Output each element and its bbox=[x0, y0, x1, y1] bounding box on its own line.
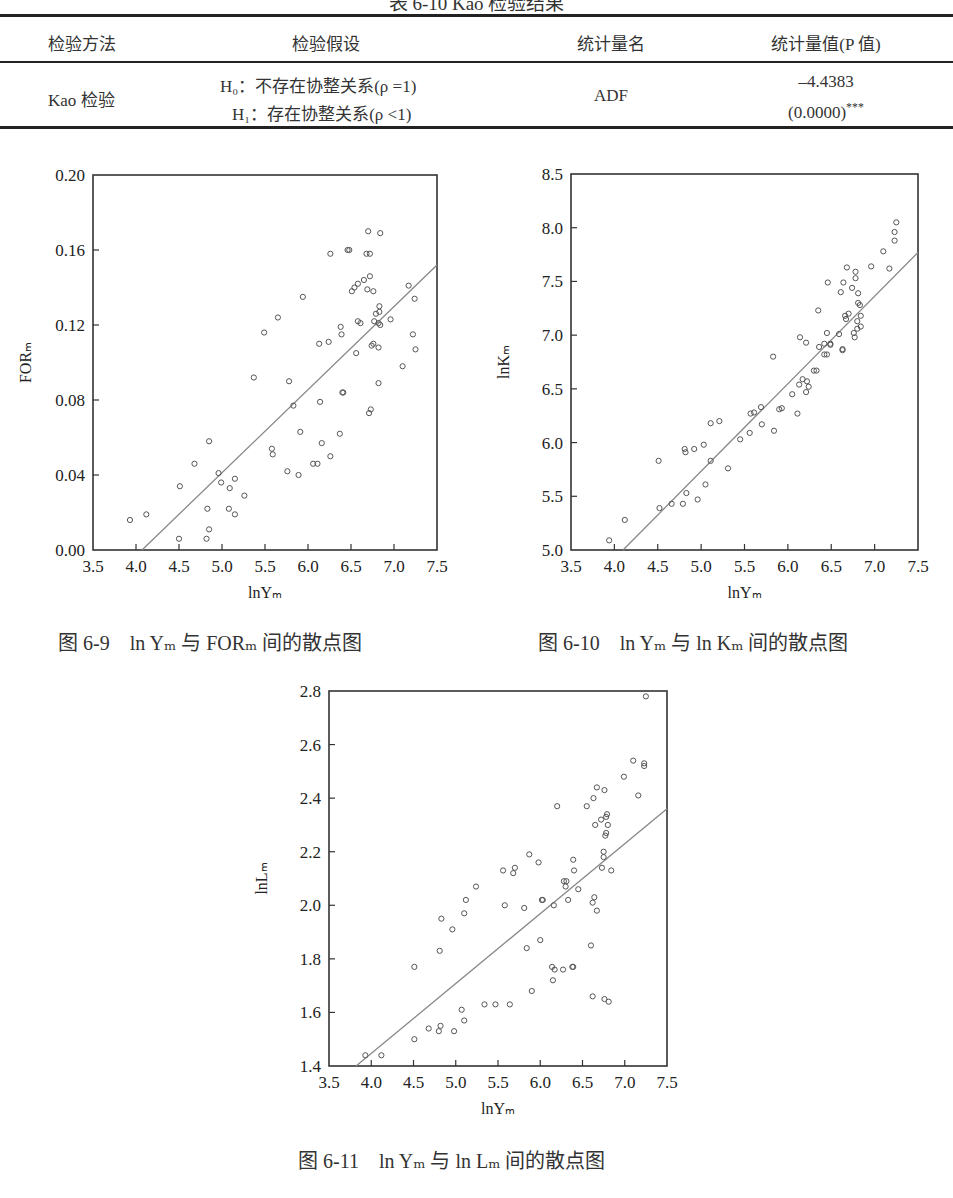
data-point bbox=[560, 967, 565, 972]
data-point bbox=[841, 280, 846, 285]
data-point bbox=[701, 442, 706, 447]
data-point bbox=[606, 999, 611, 1004]
x-tick-label: 7.0 bbox=[383, 557, 404, 576]
data-point bbox=[797, 382, 802, 387]
data-point bbox=[317, 341, 322, 346]
x-tick-label: 3.5 bbox=[82, 557, 103, 576]
data-point bbox=[571, 868, 576, 873]
data-point bbox=[717, 418, 722, 423]
data-point bbox=[482, 1002, 487, 1007]
figure-caption-6-10: 图 6-10 ln Yₘ 与 ln Kₘ 间的散点图 bbox=[538, 627, 848, 656]
data-point bbox=[226, 506, 231, 511]
data-point bbox=[822, 341, 827, 346]
table-header-rule bbox=[0, 61, 953, 63]
cell-hypothesis-h0: H₀：不存在协整关系(ρ =1) bbox=[220, 72, 416, 97]
table-caption: 表 6-10 Kao 检验结果 bbox=[0, 0, 953, 15]
data-point bbox=[367, 251, 372, 256]
data-point bbox=[881, 249, 886, 254]
data-point bbox=[683, 450, 688, 455]
cell-p-value: (0.0000)*** bbox=[788, 100, 864, 123]
data-point bbox=[825, 280, 830, 285]
data-point bbox=[601, 854, 606, 859]
x-tick-label: 4.5 bbox=[403, 1073, 424, 1092]
data-point bbox=[538, 938, 543, 943]
data-point bbox=[270, 452, 275, 457]
y-tick-label: 1.8 bbox=[300, 950, 321, 969]
data-point bbox=[192, 461, 197, 466]
x-tick-label: 4.0 bbox=[125, 557, 146, 576]
data-point bbox=[748, 411, 753, 416]
data-point bbox=[204, 536, 209, 541]
y-tick-label: 5.0 bbox=[542, 541, 563, 560]
x-tick-label: 3.5 bbox=[318, 1073, 339, 1092]
data-point bbox=[355, 281, 360, 286]
y-tick-label: 2.2 bbox=[300, 843, 321, 862]
data-point bbox=[251, 375, 256, 380]
data-point bbox=[127, 517, 132, 522]
y-tick-label: 7.0 bbox=[542, 326, 563, 345]
data-point bbox=[328, 454, 333, 459]
data-point bbox=[684, 490, 689, 495]
data-point bbox=[571, 857, 576, 862]
data-point bbox=[602, 788, 607, 793]
data-point bbox=[326, 339, 331, 344]
data-point bbox=[590, 900, 595, 905]
data-point bbox=[366, 229, 371, 234]
scatter-chart-lnl: 3.54.04.55.05.56.06.57.07.51.41.61.82.02… bbox=[236, 677, 712, 1127]
data-point bbox=[413, 347, 418, 352]
data-point bbox=[406, 283, 411, 288]
data-point bbox=[838, 290, 843, 295]
x-tick-label: 5.0 bbox=[445, 1073, 466, 1092]
scatter-points bbox=[127, 229, 418, 542]
figure-number: 图 6-10 bbox=[538, 632, 600, 654]
x-tick-label: 5.5 bbox=[487, 1073, 508, 1092]
scatter-chart-lnk: 3.54.04.55.05.56.06.57.07.55.05.56.06.57… bbox=[476, 160, 953, 610]
data-point bbox=[317, 399, 322, 404]
data-point bbox=[758, 405, 763, 410]
data-point bbox=[451, 1029, 456, 1034]
y-tick-label: 6.0 bbox=[542, 434, 563, 453]
data-point bbox=[376, 345, 381, 350]
data-point bbox=[500, 868, 505, 873]
data-point bbox=[747, 430, 752, 435]
data-point bbox=[669, 501, 674, 506]
x-tick-label: 4.0 bbox=[361, 1073, 382, 1092]
data-point bbox=[824, 330, 829, 335]
y-tick-label: 1.6 bbox=[300, 1003, 321, 1022]
figure-text: ln Yₘ 与 FORₘ 间的散点图 bbox=[130, 632, 363, 654]
x-tick-label: 7.0 bbox=[614, 1073, 635, 1092]
data-point bbox=[354, 351, 359, 356]
cell-statistic-name: ADF bbox=[594, 86, 628, 106]
data-point bbox=[816, 308, 821, 313]
data-point bbox=[588, 943, 593, 948]
data-point bbox=[300, 294, 305, 299]
data-point bbox=[522, 905, 527, 910]
data-point bbox=[242, 493, 247, 498]
x-tick-label: 5.5 bbox=[254, 557, 275, 576]
figure-text: ln Yₘ 与 ln Kₘ 间的散点图 bbox=[620, 632, 849, 654]
data-point bbox=[843, 316, 848, 321]
data-point bbox=[502, 903, 507, 908]
figure-caption-6-11: 图 6-11 ln Yₘ 与 ln Lₘ 间的散点图 bbox=[298, 1145, 605, 1174]
y-axis-label: FORₘ bbox=[17, 342, 34, 383]
data-point bbox=[680, 501, 685, 506]
y-tick-label: 0.16 bbox=[55, 241, 85, 260]
cell-statistic-value: –4.4383 bbox=[798, 72, 853, 92]
x-tick-label: 3.5 bbox=[560, 557, 581, 576]
data-point bbox=[177, 484, 182, 489]
data-point bbox=[298, 429, 303, 434]
data-point bbox=[795, 411, 800, 416]
data-point bbox=[657, 506, 662, 511]
header-statistic-name: 统计量名 bbox=[577, 30, 645, 55]
data-point bbox=[601, 849, 606, 854]
x-axis-label: lnYₘ bbox=[728, 584, 762, 601]
data-point bbox=[379, 1053, 384, 1058]
data-point bbox=[621, 774, 626, 779]
data-point bbox=[473, 884, 478, 889]
x-tick-label: 5.5 bbox=[734, 557, 755, 576]
data-point bbox=[462, 1018, 467, 1023]
header-method: 检验方法 bbox=[48, 30, 116, 55]
data-point bbox=[622, 517, 627, 522]
data-point bbox=[771, 354, 776, 359]
data-point bbox=[339, 332, 344, 337]
